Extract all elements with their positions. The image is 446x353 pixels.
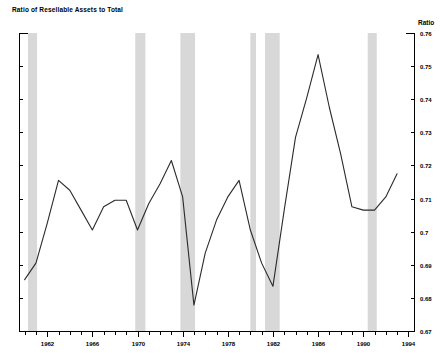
recession-band	[135, 33, 145, 331]
recession-band	[180, 33, 195, 331]
y-tick-label: 0.72	[420, 163, 432, 169]
chart-container: Ratio of Resellable Assets to Total Rati…	[0, 0, 446, 353]
y-tick-label: 0.76	[420, 31, 432, 37]
y-axis-tick-labels: 0.670.680.690.70.710.720.730.740.750.76	[420, 31, 432, 335]
x-axis-tick-labels: 196219661970197419781982198619901994	[41, 341, 416, 347]
x-tick-label: 1978	[222, 341, 236, 347]
x-tick-label: 1966	[86, 341, 100, 347]
recession-band	[368, 33, 377, 331]
y-tick-label: 0.74	[420, 97, 432, 103]
chart-axes	[19, 33, 415, 332]
y-tick-label: 0.69	[420, 263, 432, 269]
data-line	[25, 55, 397, 306]
y-tick-label: 0.7	[420, 230, 429, 236]
y-tick-label: 0.73	[420, 130, 432, 136]
data-series-group	[25, 55, 397, 306]
x-tick-label: 1974	[177, 341, 191, 347]
y-tick-label: 0.67	[420, 329, 432, 335]
x-tick-label: 1990	[357, 341, 371, 347]
y-tick-label: 0.68	[420, 296, 432, 302]
recession-bands-group	[28, 33, 377, 331]
recession-band	[28, 33, 37, 331]
chart-plot-area: 0.670.680.690.70.710.720.730.740.750.76 …	[0, 0, 446, 353]
y-axis-ticks	[19, 34, 415, 299]
x-tick-label: 1970	[132, 341, 146, 347]
y-tick-label: 0.75	[420, 64, 432, 70]
x-tick-label: 1962	[41, 341, 55, 347]
x-tick-label: 1982	[267, 341, 281, 347]
x-tick-label: 1986	[312, 341, 326, 347]
y-tick-label: 0.71	[420, 197, 432, 203]
recession-band	[250, 33, 256, 331]
x-tick-label: 1994	[402, 341, 416, 347]
